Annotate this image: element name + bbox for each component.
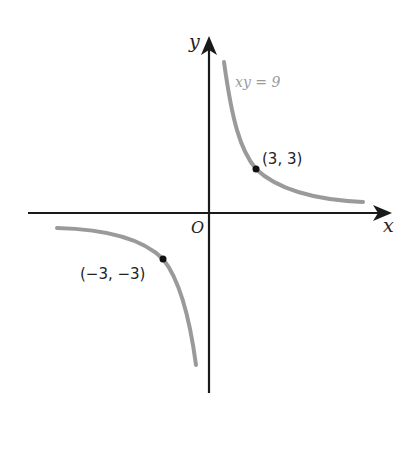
hyperbola-branch-q3: [57, 228, 196, 365]
point-label-q1: (3, 3): [262, 150, 302, 168]
point-3-3: [253, 166, 260, 173]
point-label-q3: (−3, −3): [80, 265, 145, 283]
point-neg3-neg3: [160, 256, 167, 263]
hyperbola-plot: y x O xy = 9 (3, 3) (−3, −3): [0, 0, 415, 452]
y-axis: [201, 36, 217, 393]
origin-label: O: [191, 218, 204, 237]
x-axis-label: x: [383, 214, 394, 236]
equation-label: xy = 9: [235, 74, 280, 90]
y-axis-label: y: [188, 30, 200, 52]
